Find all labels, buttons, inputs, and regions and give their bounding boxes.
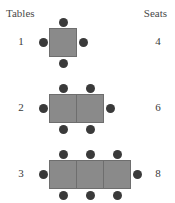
pattern-row: 3 8 <box>0 146 175 203</box>
seats-count-label: 8 <box>151 168 165 179</box>
seat-dot-top <box>59 150 68 159</box>
seat-dot-bottom <box>59 125 68 134</box>
seat-dot-top <box>59 84 68 93</box>
seat-dot-top <box>86 150 95 159</box>
seat-dot-top <box>86 84 95 93</box>
seat-dot-bottom <box>113 191 122 200</box>
seat-dot-left <box>39 104 48 113</box>
tables-count-label: 3 <box>14 168 28 179</box>
seat-dot-right <box>106 104 115 113</box>
table-unit <box>76 160 104 189</box>
table-unit <box>49 28 77 57</box>
tables-count-label: 2 <box>14 102 28 113</box>
pattern-row: 2 6 <box>0 80 175 138</box>
tables-group <box>49 28 77 57</box>
table-unit <box>49 160 77 189</box>
table-unit <box>49 94 77 123</box>
table-unit <box>103 160 131 189</box>
seat-dot-bottom <box>86 191 95 200</box>
tables-count-label: 1 <box>14 36 28 47</box>
seat-dot-left <box>39 38 48 47</box>
tables-group <box>49 160 131 189</box>
seat-dot-right <box>79 38 88 47</box>
seat-dot-right <box>133 170 142 179</box>
tables-group <box>49 94 104 123</box>
seat-dot-top <box>113 150 122 159</box>
seat-dot-bottom <box>59 191 68 200</box>
seat-dot-bottom <box>59 59 68 68</box>
table-unit <box>76 94 104 123</box>
table-seat-pattern-diagram: Tables Seats 1 4 2 6 3 8 <box>0 0 175 203</box>
seats-count-label: 6 <box>151 102 165 113</box>
seats-count-label: 4 <box>151 36 165 47</box>
pattern-row: 1 4 <box>0 14 175 72</box>
seat-dot-top <box>59 18 68 27</box>
seat-dot-bottom <box>86 125 95 134</box>
seat-dot-left <box>39 170 48 179</box>
